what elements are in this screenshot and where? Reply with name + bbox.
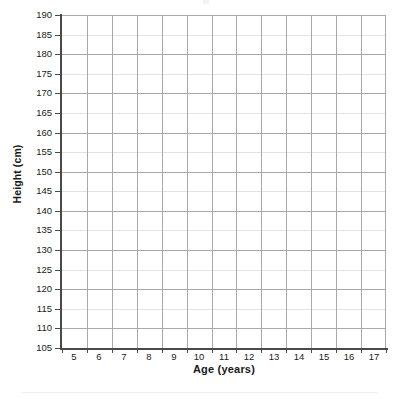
gridline-vertical [87, 15, 88, 348]
x-axis-tick-label: 17 [359, 352, 389, 362]
chart-container: Height (cm) 1901851801751701651601551501… [0, 0, 397, 399]
y-axis-tick-mark [55, 152, 61, 153]
y-axis-tick-label: 190 [18, 10, 52, 20]
gridline-vertical [112, 15, 113, 348]
y-axis-tick-label: 185 [18, 30, 52, 40]
y-axis-tick-label: 120 [18, 284, 52, 294]
y-axis-tick-label: 150 [18, 167, 52, 177]
gridline-horizontal [62, 309, 386, 310]
y-axis-tick-label: 180 [18, 49, 52, 59]
gridline-vertical [162, 15, 163, 348]
gridline-horizontal [62, 35, 386, 36]
y-axis-tick-mark [55, 35, 61, 36]
gridline-vertical [286, 15, 287, 348]
figure-bottom-rule [22, 392, 377, 393]
y-axis-tick-label: 105 [18, 343, 52, 353]
gridline-vertical [137, 15, 138, 348]
y-axis-tick-label: 160 [18, 128, 52, 138]
gridline-horizontal [62, 93, 386, 94]
y-axis-tick-mark [55, 230, 61, 231]
gridline-vertical [311, 15, 312, 348]
y-axis-tick-label: 170 [18, 88, 52, 98]
y-axis-tick-mark [55, 348, 61, 349]
gridline-horizontal [62, 133, 386, 134]
gridline-horizontal [62, 270, 386, 271]
y-axis-tick-mark [55, 15, 61, 16]
gridline-horizontal [62, 152, 386, 153]
y-axis-line [60, 14, 62, 350]
cropped-header-artifact [203, 0, 209, 4]
y-axis-tick-mark [55, 328, 61, 329]
y-axis-tick-mark [55, 172, 61, 173]
y-axis-tick-mark [55, 113, 61, 114]
y-axis-tick-mark [55, 289, 61, 290]
gridline-vertical [361, 15, 362, 348]
y-axis-tick-label: 165 [18, 108, 52, 118]
gridline-horizontal [62, 15, 386, 16]
gridline-horizontal [62, 191, 386, 192]
gridline-horizontal [62, 328, 386, 329]
y-axis-tick-mark [55, 191, 61, 192]
y-axis-tick-mark [55, 54, 61, 55]
y-axis-tick-label: 115 [18, 304, 52, 314]
x-axis-title: Age (years) [62, 363, 386, 375]
y-axis-tick-mark [55, 211, 61, 212]
y-axis-tick-label: 135 [18, 225, 52, 235]
gridline-horizontal [62, 250, 386, 251]
plot-area [62, 15, 386, 348]
gridline-horizontal [62, 289, 386, 290]
y-axis-tick-label: 145 [18, 186, 52, 196]
y-axis-tick-mark [55, 309, 61, 310]
gridline-vertical [261, 15, 262, 348]
gridline-horizontal [62, 172, 386, 173]
gridline-vertical [187, 15, 188, 348]
gridline-horizontal [62, 211, 386, 212]
y-axis-tick-mark [55, 74, 61, 75]
gridline-horizontal [62, 113, 386, 114]
x-axis-line [60, 348, 388, 350]
y-axis-tick-mark [55, 270, 61, 271]
y-axis-tick-mark [55, 93, 61, 94]
y-axis-tick-label: 130 [18, 245, 52, 255]
y-axis-tick-label: 140 [18, 206, 52, 216]
y-axis-tick-label: 175 [18, 69, 52, 79]
gridline-vertical [385, 15, 386, 348]
gridline-vertical [336, 15, 337, 348]
gridline-vertical [236, 15, 237, 348]
y-axis-tick-label: 125 [18, 265, 52, 275]
gridline-horizontal [62, 230, 386, 231]
gridline-horizontal [62, 54, 386, 55]
y-axis-tick-mark [55, 250, 61, 251]
y-axis-tick-mark [55, 133, 61, 134]
gridline-vertical [212, 15, 213, 348]
gridline-horizontal [62, 74, 386, 75]
y-axis-tick-label: 110 [18, 323, 52, 333]
y-axis-tick-label: 155 [18, 147, 52, 157]
